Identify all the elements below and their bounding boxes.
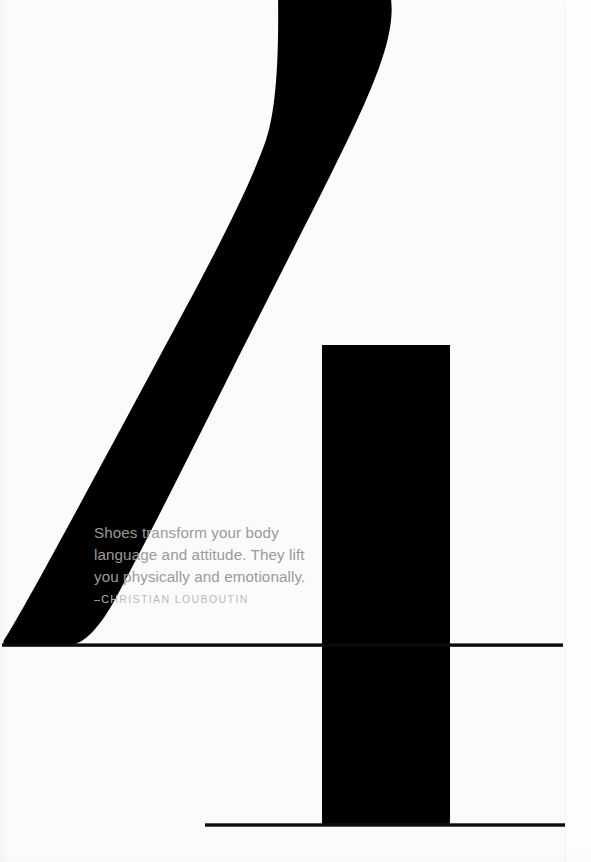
shoe-silhouette-artwork [0,0,591,862]
quote-block: Shoes transform your body language and a… [94,522,309,606]
ground-line-lower [205,823,565,826]
heel-block-shape [322,345,450,825]
quote-attribution: –CHRISTIAN LOUBOUTIN [94,592,309,606]
ground-line-upper [2,643,563,646]
poster-canvas: Shoes transform your body language and a… [0,0,591,862]
quote-text: Shoes transform your body language and a… [94,522,309,588]
